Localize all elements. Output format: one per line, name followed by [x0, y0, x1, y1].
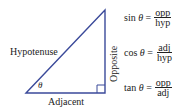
sin-func: sin	[124, 12, 136, 23]
sin-var: θ	[138, 12, 143, 23]
cos-var: θ	[140, 47, 145, 58]
tan-func: tan	[124, 82, 136, 93]
adjacent-label: Adjacent	[48, 96, 84, 107]
tan-denominator: adj	[156, 88, 170, 97]
sin-eq: =	[146, 12, 152, 23]
hypotenuse-label: Hypotenuse	[10, 46, 58, 57]
cos-formula: cos θ = adjhyp	[124, 43, 173, 62]
cos-func: cos	[124, 47, 137, 58]
sin-fraction: opphyp	[154, 8, 171, 27]
tan-eq: =	[146, 82, 152, 93]
sin-denominator: hyp	[154, 18, 171, 27]
tan-var: θ	[139, 82, 144, 93]
sin-formula: sin θ = opphyp	[124, 8, 171, 27]
opposite-label: Opposite	[108, 46, 119, 82]
angle-theta-label: θ	[38, 80, 42, 90]
cos-denominator: hyp	[156, 53, 173, 62]
tan-fraction: oppadj	[155, 78, 172, 97]
right-angle-marker	[97, 85, 105, 93]
cos-eq: =	[147, 47, 153, 58]
cos-fraction: adjhyp	[156, 43, 173, 62]
tan-formula: tan θ = oppadj	[124, 78, 172, 97]
